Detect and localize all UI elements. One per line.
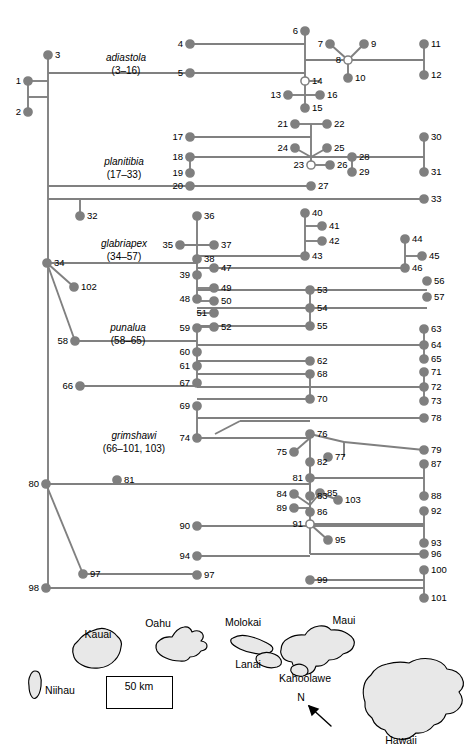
map-label-lanai: Lanai [235, 658, 261, 670]
map-label-niihau: Niihau [45, 684, 75, 696]
compass-north-label: N [297, 691, 305, 703]
map-label-oahu: Oahu [145, 617, 171, 629]
map-label-kahoolawe: Kahoolawe [279, 672, 331, 684]
map-island-labels: KauaiNiihauOahuMolokaiLanaiMauiKahoolawe… [0, 0, 474, 752]
map-label-kauai: Kauai [85, 628, 112, 640]
map-label-maui: Maui [333, 614, 356, 626]
figure-root: 1234567891011121314151617181920212223242… [0, 0, 474, 752]
map-label-hawaii: Hawaii [385, 734, 417, 746]
map-label-molokai: Molokai [225, 616, 261, 628]
